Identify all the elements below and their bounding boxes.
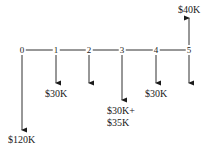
- period-2-label: 2: [86, 45, 93, 55]
- cash-flow-diagram: [0, 0, 207, 151]
- period-5-label: 5: [186, 45, 193, 55]
- period-0-label: 0: [19, 45, 26, 55]
- flow-label-period-4: $30K: [145, 88, 167, 99]
- flow-label-period-5-up: $40K: [178, 4, 200, 15]
- period-1-label: 1: [53, 45, 60, 55]
- period-4-label: 4: [153, 45, 160, 55]
- flow-label-period-3-line1: $30K+: [107, 105, 135, 116]
- flow-label-period-3-line2: $35K: [107, 117, 129, 128]
- flow-label-period-1: $30K: [45, 88, 67, 99]
- period-3-label: 3: [119, 45, 126, 55]
- flow-label-period-0: $120K: [8, 134, 35, 145]
